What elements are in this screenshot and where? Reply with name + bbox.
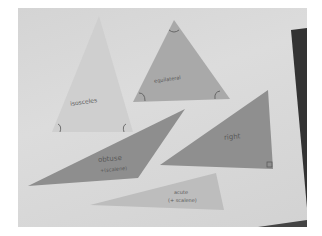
isosceles-triangle xyxy=(52,16,133,132)
dark-object xyxy=(291,28,307,208)
acute-sublabel: (+ scalene) xyxy=(168,197,197,204)
right-label: right xyxy=(224,133,241,141)
dark-edge xyxy=(258,220,307,227)
right-triangle xyxy=(160,90,273,169)
triangles-drawing xyxy=(18,8,307,227)
equilateral-triangle xyxy=(133,20,230,102)
acute-label: acute xyxy=(174,189,188,196)
photo: isosceles equilateral obtuse +(scalene) … xyxy=(18,8,307,227)
